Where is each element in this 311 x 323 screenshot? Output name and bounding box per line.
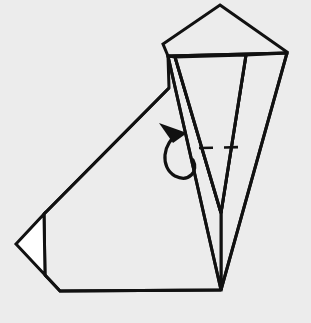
origami-diagram-canvas: Origami fold diagram step xyxy=(0,0,311,323)
origami-figure xyxy=(0,0,311,323)
